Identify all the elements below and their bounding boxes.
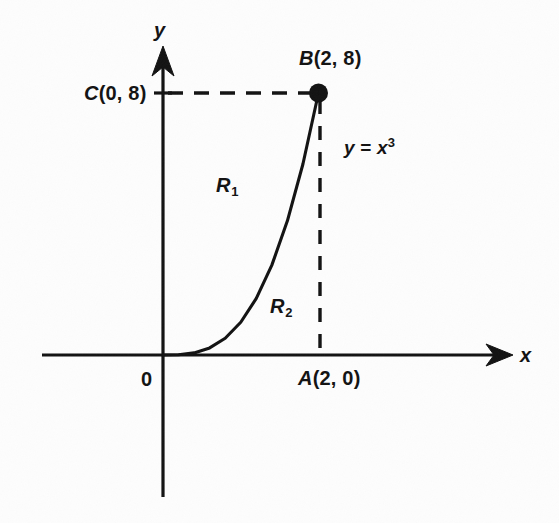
math-figure: y x 0 C(0, 8) B(2, 8) A(2, 0) R1 R2 y = … [0, 0, 559, 523]
point-b-name: B [299, 47, 314, 69]
point-b-marker [309, 84, 328, 103]
equation-equals: = [355, 137, 377, 158]
equation-base: x [377, 137, 388, 158]
region-r2-subscript: 2 [285, 305, 292, 320]
point-b-coords: (2, 8) [314, 47, 362, 69]
curve-equation-label: y = x3 [344, 138, 395, 157]
equation-exponent: 3 [388, 135, 395, 150]
x-axis-label: x [520, 345, 531, 365]
cubic-curve-y-equals-x-cubed [163, 93, 319, 355]
region-r1-base: R [216, 174, 231, 196]
point-label-c: C(0, 8) [84, 83, 147, 103]
region-r1-subscript: 1 [231, 184, 238, 199]
origin-label: 0 [141, 369, 152, 389]
point-a-coords: (2, 0) [313, 367, 361, 389]
point-c-name: C [84, 82, 99, 104]
region-r2-base: R [270, 295, 285, 317]
point-label-b: B(2, 8) [299, 48, 362, 68]
point-a-name: A [298, 367, 313, 389]
point-c-coords: (0, 8) [99, 82, 147, 104]
region-label-r2: R2 [270, 296, 292, 316]
coordinate-plane-graphic [0, 0, 559, 523]
equation-lhs: y [344, 137, 355, 158]
point-label-a: A(2, 0) [298, 368, 361, 388]
region-label-r1: R1 [216, 175, 238, 195]
y-axis-label: y [154, 20, 165, 40]
